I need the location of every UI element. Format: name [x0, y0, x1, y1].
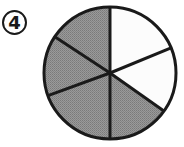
fraction-circle	[0, 0, 184, 147]
